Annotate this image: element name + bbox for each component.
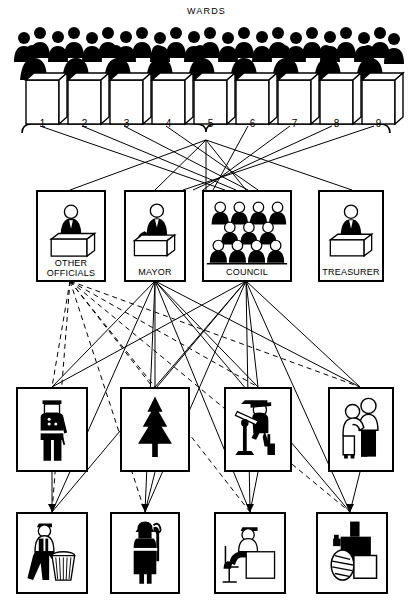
ballot-box-row	[26, 73, 403, 124]
treasurer-at-desk-icon	[320, 192, 382, 278]
ward-number-2[interactable]: 2	[68, 118, 101, 129]
evergreen-tree-icon	[122, 389, 188, 469]
department-cross-links	[52, 472, 360, 512]
police-officer-icon	[18, 389, 86, 469]
arrowheads	[48, 504, 354, 512]
ward-number-6[interactable]: 6	[236, 118, 269, 129]
node-department-sanitation[interactable]	[16, 512, 88, 594]
node-department-police[interactable]	[16, 387, 88, 472]
firefighter-icon	[112, 514, 178, 591]
office-worker-at-desk-icon	[216, 514, 284, 591]
page-title: WARDS	[0, 6, 413, 16]
ward-number-9[interactable]: 9	[362, 118, 395, 129]
ward-number-4[interactable]: 4	[152, 118, 185, 129]
node-label-other-officials: OTHER OFFICIALS	[38, 258, 104, 278]
voter-crowd-icon	[14, 27, 404, 80]
node-department-public-works[interactable]	[316, 512, 388, 594]
node-treasurer[interactable]: TREASURER	[318, 190, 384, 282]
organization-chart: WARDS	[0, 0, 413, 612]
ward-number-1[interactable]: 1	[26, 118, 59, 129]
surveyor-with-transit-icon	[226, 389, 290, 469]
node-council[interactable]: COUNCIL	[202, 190, 292, 282]
node-mayor[interactable]: MAYOR	[124, 190, 186, 282]
node-department-clerical[interactable]	[214, 512, 286, 594]
wards-group: 1 2 3 4 5 6 7 8 9	[0, 18, 413, 138]
ward-number-8[interactable]: 8	[320, 118, 353, 129]
ward-number-3[interactable]: 3	[110, 118, 143, 129]
mayor-at-desk-icon	[126, 192, 184, 278]
steamroller-icon	[318, 514, 386, 591]
node-other-officials[interactable]: OTHER OFFICIALS	[36, 190, 106, 282]
ward-number-5[interactable]: 5	[194, 118, 227, 129]
node-label-treasurer: TREASURER	[320, 267, 382, 277]
node-department-health[interactable]	[328, 387, 394, 472]
officials-to-departments-solid-lines	[52, 281, 360, 512]
worker-with-trash-can-icon	[18, 514, 86, 591]
node-department-engineering[interactable]	[224, 387, 292, 472]
node-department-fire[interactable]	[110, 512, 180, 594]
ward-number-7[interactable]: 7	[278, 118, 311, 129]
officials-to-departments-dashed-lines	[52, 281, 360, 512]
node-label-mayor: MAYOR	[126, 267, 184, 277]
node-label-council: COUNCIL	[204, 267, 290, 277]
node-department-parks[interactable]	[120, 387, 190, 472]
doctor-examining-patient-icon	[330, 389, 392, 469]
